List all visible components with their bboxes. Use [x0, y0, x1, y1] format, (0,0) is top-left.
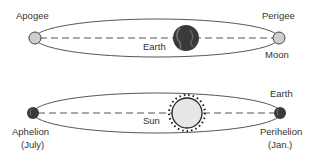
aphelion-month-label: (July) [21, 139, 44, 150]
perigee-label: Perigee [262, 10, 295, 21]
orbit-diagrams: Apogee Perigee Earth Moon Earth Sun Aphe… [0, 0, 315, 161]
apogee-label: Apogee [16, 10, 49, 21]
moon-label: Moon [265, 49, 289, 60]
moon-orbit-diagram: Apogee Perigee Earth Moon [16, 10, 295, 60]
earth-perihelion-icon [274, 107, 286, 119]
earth-orbit-ellipse [33, 93, 281, 133]
perihelion-label: Perihelion [260, 126, 302, 137]
earth-label: Earth [143, 41, 166, 52]
moon-apogee-icon [29, 32, 41, 44]
perihelion-month-label: (Jan.) [268, 139, 292, 150]
earth-icon [173, 25, 199, 51]
aphelion-label: Aphelion [12, 126, 49, 137]
earth-aphelion-icon [27, 107, 39, 119]
earth-label: Earth [270, 88, 293, 99]
earth-orbit-diagram: Earth Sun Aphelion (July) Perihelion (Ja… [12, 88, 302, 150]
sun-icon [169, 95, 205, 131]
sun-label: Sun [143, 115, 160, 126]
moon-perigee-icon [273, 32, 285, 44]
